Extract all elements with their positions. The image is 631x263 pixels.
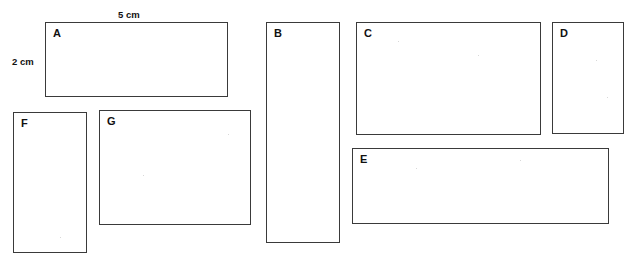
- rectangle-b: B: [266, 22, 340, 243]
- scan-speck: [60, 237, 61, 238]
- rectangle-g-label: G: [107, 116, 116, 127]
- scan-speck: [596, 60, 597, 61]
- diagram-canvas: 5 cm 2 cm A B C D E F G: [0, 0, 631, 263]
- rectangle-c: C: [356, 22, 541, 135]
- rectangle-g: G: [99, 110, 251, 225]
- scan-speck: [416, 168, 417, 169]
- scan-speck: [398, 41, 399, 42]
- rectangle-b-label: B: [274, 28, 282, 39]
- rectangle-f: F: [13, 112, 87, 253]
- dimension-label-width: 5 cm: [118, 10, 140, 20]
- scan-speck: [520, 160, 521, 161]
- scan-speck: [607, 97, 608, 98]
- rectangle-e-label: E: [360, 154, 368, 165]
- rectangle-f-label: F: [21, 118, 28, 129]
- rectangle-a-label: A: [53, 28, 61, 39]
- rectangle-d-label: D: [560, 28, 568, 39]
- scan-speck: [478, 55, 479, 56]
- dimension-label-height: 2 cm: [12, 57, 34, 67]
- rectangle-a: A: [45, 22, 228, 97]
- rectangle-d: D: [552, 22, 624, 134]
- scan-speck: [228, 134, 229, 135]
- rectangle-e: E: [352, 148, 609, 224]
- scan-speck: [143, 175, 144, 176]
- rectangle-c-label: C: [364, 28, 372, 39]
